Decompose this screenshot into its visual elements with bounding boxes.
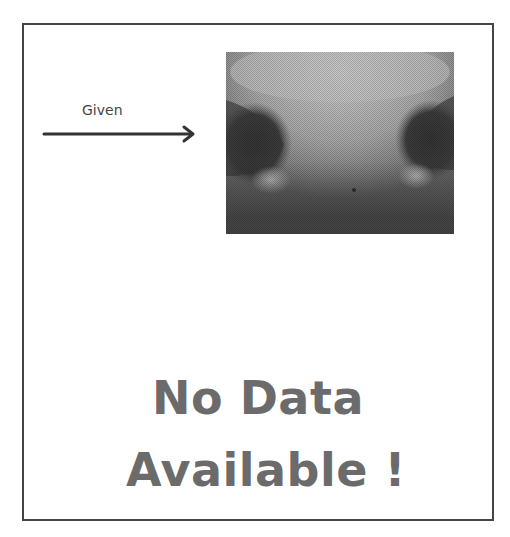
- given-label: Given: [82, 102, 123, 118]
- no-data-message-line2: Available !: [32, 445, 500, 495]
- muzzle-image: [226, 52, 454, 234]
- right-arrow-icon: [42, 124, 198, 144]
- no-data-message-line1: No Data: [24, 373, 492, 423]
